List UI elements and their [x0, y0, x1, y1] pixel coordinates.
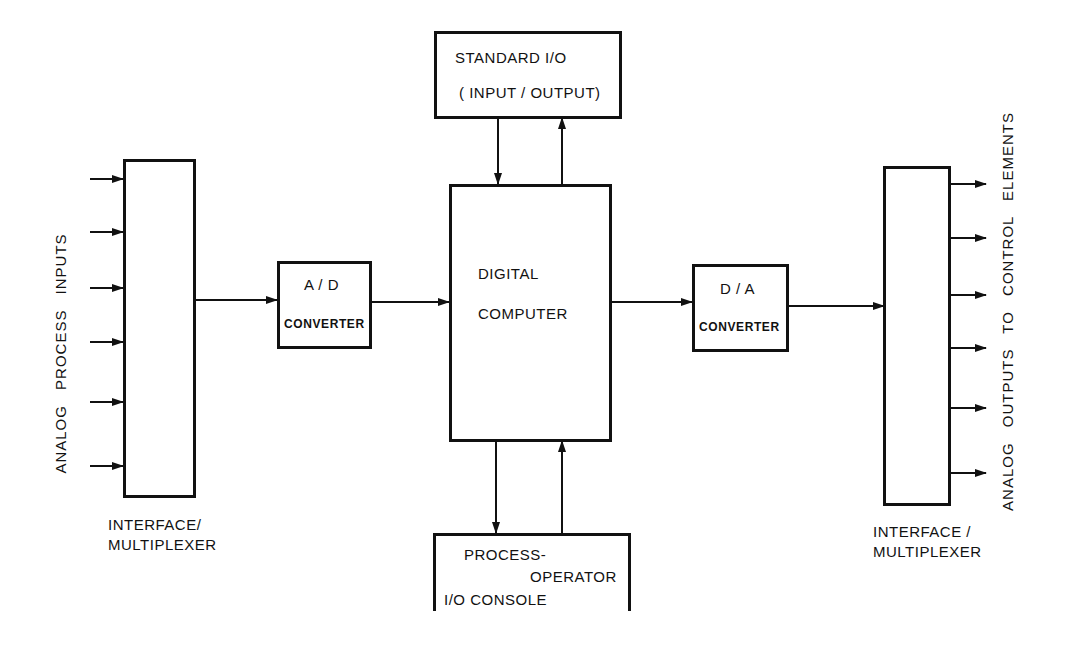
- da-title: D / A: [720, 280, 755, 297]
- digital-computer-line1: DIGITAL: [478, 265, 539, 282]
- left-interface-multiplexer: [123, 159, 196, 498]
- left-mux-label-line2: MULTIPLEXER: [108, 536, 217, 553]
- standard-io-block: STANDARD I/O ( INPUT / OUTPUT): [434, 31, 622, 119]
- ad-subtitle: CONVERTER: [284, 317, 365, 331]
- console-line3: I/O CONSOLE: [444, 591, 547, 608]
- digital-computer-line2: COMPUTER: [478, 305, 568, 322]
- right-interface-multiplexer: [883, 166, 951, 506]
- digital-computer-block: DIGITAL COMPUTER: [449, 184, 612, 442]
- process-operator-console-block: PROCESS- OPERATOR I/O CONSOLE: [433, 533, 631, 611]
- right-mux-label-line2: MULTIPLEXER: [873, 543, 982, 560]
- da-subtitle: CONVERTER: [699, 320, 780, 334]
- analog-process-inputs-label: ANALOG PROCESS INPUTS: [52, 224, 69, 484]
- ad-title: A / D: [304, 276, 339, 293]
- left-mux-label-line1: INTERFACE/: [108, 516, 201, 533]
- console-line2: OPERATOR: [530, 568, 617, 585]
- right-mux-label-line1: INTERFACE /: [873, 523, 971, 540]
- standard-io-subtitle: ( INPUT / OUTPUT): [459, 84, 601, 101]
- analog-outputs-label: ANALOG OUTPUTS TO CONTROL ELEMENTS: [999, 112, 1016, 512]
- da-converter-block: D / A CONVERTER: [692, 264, 789, 352]
- standard-io-title: STANDARD I/O: [455, 49, 567, 66]
- ad-converter-block: A / D CONVERTER: [277, 261, 372, 349]
- console-line1: PROCESS-: [464, 546, 546, 563]
